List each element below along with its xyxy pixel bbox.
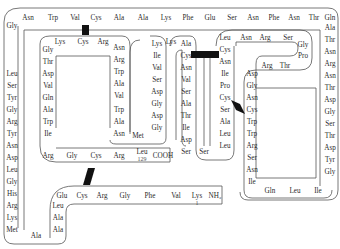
residue-gly: Gly <box>120 192 131 200</box>
residue-ser: Ser <box>181 88 191 96</box>
residue-trp: Trp <box>247 118 257 126</box>
residue-arg: Arg <box>259 34 270 42</box>
residue-leu: Leu <box>219 34 230 42</box>
residue-cys: Cys <box>90 14 101 22</box>
residue-gly: Gly <box>7 178 18 186</box>
residue-thr: Thr <box>309 14 319 22</box>
residue-thr: Thr <box>325 84 335 92</box>
residue-index: 129 <box>138 156 147 162</box>
residue-ala: Ala <box>114 118 124 126</box>
residue-gly: Gly <box>7 22 18 30</box>
residue-arg: Arg <box>113 152 124 160</box>
residue-asn: Asn <box>288 14 300 22</box>
residue-tyr: Tyr <box>7 94 17 102</box>
residue-ser: Ser <box>227 14 237 22</box>
residue-cys: Cys <box>90 152 101 160</box>
residue-ala: Ala <box>43 106 53 114</box>
residue-ser: Ser <box>199 148 209 156</box>
residue-his: His <box>7 190 17 198</box>
residue-leu: Leu <box>219 142 230 150</box>
residue-ser: Ser <box>283 34 293 42</box>
residue-ser: Ser <box>220 106 230 114</box>
residue-val: Val <box>70 14 80 22</box>
residue-met: Met <box>6 226 18 234</box>
residue-asn: Asn <box>324 48 336 56</box>
residue-trp: Trp <box>114 106 124 114</box>
residue-thr: Thr <box>181 112 191 120</box>
residue-trp: Trp <box>43 118 53 126</box>
residue-val: Val <box>152 64 162 72</box>
residue-lys: Lys <box>166 38 176 46</box>
residue-ala: Ala <box>114 80 124 88</box>
residue-cys: Cys <box>76 192 87 200</box>
residue-gly: Gly <box>67 152 78 160</box>
residue-val: Val <box>181 76 191 84</box>
residue-cys: Cys <box>180 52 191 60</box>
residue-asn: Asn <box>246 94 258 102</box>
residue-asp: Asp <box>42 70 54 78</box>
residue-ile: Ile <box>44 130 52 138</box>
residue-glu: Glu <box>57 192 68 200</box>
residue-ser: Ser <box>7 82 17 90</box>
residue-asp: Asp <box>6 154 18 162</box>
residue-asn: Asn <box>180 64 192 72</box>
residue-leu: Leu <box>136 148 147 156</box>
residue-leu: Leu <box>6 166 17 174</box>
residue-ser: Ser <box>152 76 162 84</box>
residue-thr: Thr <box>280 62 290 70</box>
residue-ile: Ile <box>153 52 161 60</box>
residue-arg: Arg <box>324 60 335 68</box>
residue-trp: Trp <box>114 68 124 76</box>
residue-cys: Cys <box>219 46 230 54</box>
residue-asp: Asp <box>324 96 336 104</box>
residue-asn: Asn <box>113 130 125 138</box>
residue-asp: Asp <box>151 88 163 96</box>
residue-gly: Gly <box>247 82 258 90</box>
residue-gly: Gly <box>325 108 336 116</box>
residue-ile: Ile <box>314 187 322 195</box>
residue-trp: Trp <box>48 14 58 22</box>
residue-asn: Asn <box>247 14 259 22</box>
residue-leu: Leu <box>219 130 230 138</box>
residue-arg: Arg <box>113 56 124 64</box>
residue-tyr: Tyr <box>325 156 335 164</box>
residue-asp: Asp <box>324 144 336 152</box>
residue-gln: Gln <box>325 14 336 22</box>
residue-val: Val <box>171 192 181 200</box>
residue-ala: Ala <box>220 118 230 126</box>
residue-index: 1 <box>196 200 199 206</box>
residue-gly: Gly <box>7 106 18 114</box>
residue-ala: Ala <box>325 24 335 32</box>
residue-ala: Ala <box>138 14 148 22</box>
residue-cys: Cys <box>219 94 230 102</box>
residue-gln: Gln <box>265 187 276 195</box>
residue-lys: Lys <box>161 14 171 22</box>
c-terminus-label: COOH <box>153 152 173 160</box>
residue-ala: Ala <box>114 14 124 22</box>
residue-lys: Lys <box>192 192 202 200</box>
residue-ile: Ile <box>182 124 190 132</box>
residue-lys: Lys <box>7 214 17 222</box>
residue-ala: Ala <box>181 40 191 48</box>
residue-gly: Gly <box>298 41 309 49</box>
residue-asn: Asn <box>219 58 231 66</box>
residue-tyr: Tyr <box>7 130 17 138</box>
residue-thr: Thr <box>325 132 335 140</box>
residue-arg: Arg <box>96 192 107 200</box>
residue-ala: Ala <box>181 100 191 108</box>
residue-gly: Gly <box>152 124 163 132</box>
residue-leu: Leu <box>289 187 300 195</box>
residue-ala: Ala <box>53 226 63 234</box>
residue-leu: Leu <box>52 202 63 210</box>
residue-val: Val <box>114 92 124 100</box>
residue-asn: Asn <box>246 166 258 174</box>
n-terminus-label: NH₂ <box>209 192 222 200</box>
residue-gly: Gly <box>152 100 163 108</box>
residue-ser: Ser <box>181 148 191 156</box>
residue-trp: Trp <box>247 130 257 138</box>
residue-ala: Ala <box>53 214 63 222</box>
residue-gly: Gly <box>43 46 54 54</box>
residue-asn: Asn <box>22 14 34 22</box>
residue-ser: Ser <box>325 120 335 128</box>
residue-asn: Asn <box>6 142 18 150</box>
